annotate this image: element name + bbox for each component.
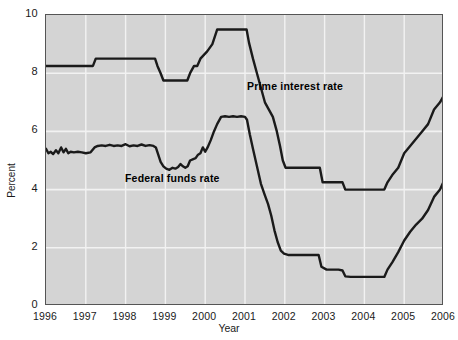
x-tick-label: 2006	[421, 310, 458, 322]
plot-area	[45, 14, 443, 305]
x-tick-label: 2000	[182, 310, 226, 322]
x-tick-label: 1997	[63, 310, 107, 322]
y-tick-label: 2	[0, 240, 38, 252]
series-label-federal-funds-rate: Federal funds rate	[125, 172, 220, 184]
plot-svg	[46, 15, 443, 305]
x-tick-label: 1999	[142, 310, 186, 322]
x-tick-label: 2003	[302, 310, 346, 322]
x-tick-label: 2004	[341, 310, 385, 322]
x-tick-label: 2002	[262, 310, 306, 322]
y-tick-label: 0	[0, 298, 38, 310]
interest-rates-line-chart: 0246810 19961997199819992000200120022003…	[0, 0, 458, 340]
x-axis-label: Year	[0, 322, 458, 334]
y-tick-label: 8	[0, 65, 38, 77]
series-label-prime-interest-rate: Prime interest rate	[247, 80, 343, 92]
x-tick-label: 1996	[23, 310, 67, 322]
x-tick-label: 2005	[381, 310, 425, 322]
x-tick-label: 1998	[103, 310, 147, 322]
x-tick-label: 2001	[222, 310, 266, 322]
y-axis-label: Percent	[6, 146, 17, 216]
y-tick-label: 10	[0, 7, 38, 19]
y-tick-label: 6	[0, 123, 38, 135]
